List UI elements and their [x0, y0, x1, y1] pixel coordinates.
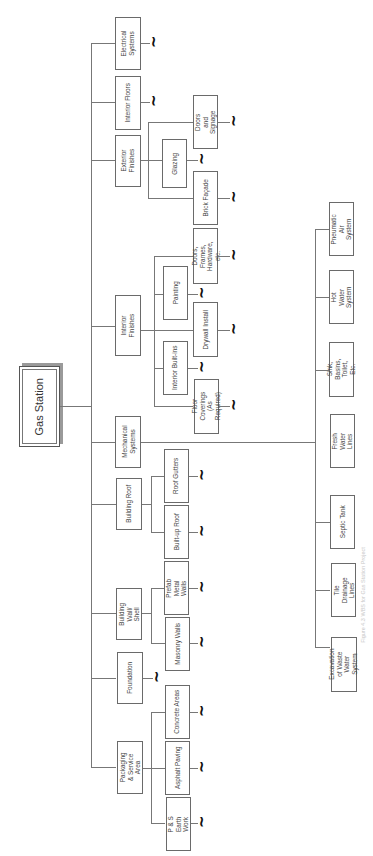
node-mechanical-systems: Mechanical Systems — [115, 416, 141, 468]
node-septic-tank: Septic Tank — [330, 495, 355, 549]
connector-mech-out — [141, 442, 316, 443]
node-tile-drainage-lines: Tile Drainage Lines — [331, 563, 356, 617]
connector-brick — [148, 198, 193, 199]
continuation-icon: ~ — [152, 673, 162, 683]
continuation-icon: ~ — [149, 38, 159, 48]
level1-spine — [91, 43, 92, 768]
node-masonry-walls: Masonry Walls — [165, 617, 190, 671]
connector-septic — [315, 522, 330, 523]
connector-electrical — [91, 43, 116, 44]
connector-floor-coverings — [154, 406, 193, 407]
continuation-icon: ~ — [229, 325, 239, 335]
node-sink-basins-toilet: Sink, Basins, Toilet, Etc. — [329, 342, 354, 397]
ext-children-spine — [148, 122, 149, 198]
continuation-icon: ~ — [197, 638, 207, 648]
connector-exterior-finishes — [91, 160, 116, 161]
connector-hotwater — [315, 297, 330, 298]
node-roof-gutters: Roof Gutters — [164, 449, 189, 503]
connector-pack-out — [143, 768, 151, 769]
node-fresh-water-lines: Fresh Water Lines — [330, 414, 355, 468]
continuation-icon: ~ — [229, 117, 239, 127]
node-doors-frames-hardware: Doors, Frames, Hardware, etc. — [193, 228, 218, 284]
node-building-wall-shell: Building Wall/ Shell — [116, 588, 142, 640]
node-building-roof: Building Roof — [116, 478, 142, 530]
int-children-spine-b — [154, 294, 155, 368]
continuation-icon: ~ — [197, 155, 207, 165]
connector-prefab — [151, 588, 165, 589]
connector-earthwork — [151, 823, 165, 824]
continuation-icon: ~ — [197, 471, 207, 481]
connector-foundation — [91, 678, 116, 679]
node-excavation-waste-water: Excavation of Waste Water System — [331, 637, 357, 692]
roof-children-spine — [151, 476, 152, 532]
connector-gutters — [151, 476, 164, 477]
connector-ext-out — [141, 160, 162, 161]
node-interior-built-ins: Interior Built-ins — [163, 341, 188, 395]
node-electrical-systems: Electrical Systems — [115, 17, 141, 70]
wall-children-spine — [151, 588, 152, 643]
continuation-icon: ~ — [197, 289, 207, 299]
connector-doors-signage — [148, 122, 193, 123]
continuation-icon: ~ — [197, 583, 207, 593]
node-doors-and-signage: Doors and Signage — [193, 95, 218, 149]
continuation-icon: ~ — [197, 818, 207, 828]
node-concrete-areas: Concrete Areas — [165, 685, 190, 739]
node-pneumatic-air-system: Pneumatic Air System — [329, 202, 354, 256]
connector-builtup — [151, 532, 164, 533]
continuation-icon: ~ — [197, 527, 207, 537]
connector-int-out — [141, 330, 193, 331]
node-foundation: Foundation — [117, 652, 143, 704]
figure-caption: Figure 4.3 WBS for Gas Station Project — [356, 470, 370, 720]
connector-concrete — [151, 712, 165, 713]
root-node-gas-station: Gas Station — [19, 366, 60, 447]
connector-interior-finishes — [91, 326, 116, 327]
node-interior-floors: Interior Floors — [115, 76, 141, 130]
root-connector — [60, 406, 91, 407]
node-brick-facade: Brick Façade — [193, 171, 218, 225]
node-ps-earth-work: P & S Earth Work — [166, 797, 191, 851]
continuation-icon: ~ — [229, 401, 239, 411]
connector-tile — [315, 590, 330, 591]
connector-masonry — [151, 643, 165, 644]
mech-children-spine — [315, 229, 316, 647]
connector-mechanical — [91, 442, 116, 443]
connector-roof-out — [142, 504, 151, 505]
continuation-icon: ~ — [229, 193, 239, 203]
continuation-icon: ~ — [197, 707, 207, 717]
connector-interior-floors — [91, 102, 116, 103]
node-asphalt-paving: Asphalt Paving — [165, 741, 190, 795]
node-interior-finishes: Interior Finishes — [115, 295, 141, 356]
connector-asphalt — [151, 768, 165, 769]
node-packaging-service-area: Packaging & Service Area — [117, 741, 143, 794]
node-drywall-install: Drywall Install — [193, 302, 218, 357]
node-built-up-roof: Built-up Roof — [164, 505, 189, 559]
connector-packaging — [91, 767, 116, 768]
connector-wall-out — [142, 613, 151, 614]
node-hot-water-system: Hot Water System — [329, 270, 354, 324]
node-floor-coverings: Floor Coverings (As Required) — [194, 379, 219, 434]
connector-building-wall — [91, 613, 116, 614]
continuation-icon: ~ — [197, 363, 207, 373]
node-painting: Painting — [163, 266, 188, 320]
continuation-icon: ~ — [197, 763, 207, 773]
continuation-icon: ~ — [149, 97, 159, 107]
connector-pneumatic — [315, 229, 330, 230]
continuation-icon: ~ — [229, 251, 239, 261]
connector-building-roof — [91, 504, 116, 505]
node-glazing: Glazing — [162, 139, 187, 188]
root-label: Gas Station — [36, 378, 44, 435]
node-exterior-finishes: Exterior Finishes — [115, 135, 141, 187]
node-prefab-metal-walls: Prefab Metal Walls — [164, 561, 189, 615]
connector-doors-frames — [154, 256, 193, 257]
